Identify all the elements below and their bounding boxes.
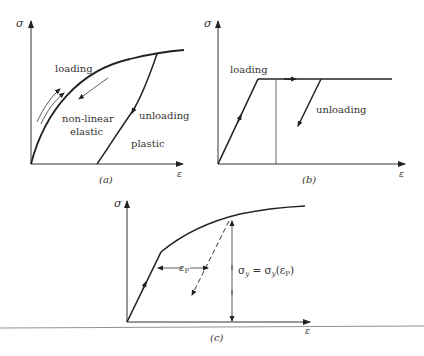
epsilon-label-c: ε <box>305 326 310 336</box>
unloading-label-b: unloading <box>316 104 367 115</box>
unloading-arrow-b <box>298 79 321 126</box>
plastic-strain-label: εP <box>179 262 189 275</box>
loading-arrow-1 <box>37 89 60 122</box>
plastic-label-a: plastic <box>131 138 165 149</box>
caption-a: (a) <box>99 174 113 185</box>
caption-b: (b) <box>302 174 316 185</box>
yield-stress-equation: σy = σy(εP) <box>238 264 294 278</box>
epsilon-label-b: ε <box>399 169 404 179</box>
stress-strain-figure: σ ε loading non-linear elastic unloading… <box>0 0 424 356</box>
caption-c: (c) <box>210 332 224 343</box>
dashed-unloading-c <box>192 221 229 295</box>
panel-b: σ ε loading unloading (b) <box>204 17 405 185</box>
elastic-arrow-b <box>238 115 241 122</box>
sigma-label-b: σ <box>204 17 212 30</box>
sigma-label-c: σ <box>114 197 122 210</box>
nonlinear-label-a: non-linear <box>62 113 114 124</box>
epsilon-label-a: ε <box>177 169 182 179</box>
loading-label-b: loading <box>230 64 268 75</box>
sigma-label-a: σ <box>16 17 24 30</box>
page-rule <box>0 326 424 328</box>
unloading-label-a: unloading <box>139 110 190 121</box>
panel-a: σ ε loading non-linear elastic unloading… <box>16 17 190 185</box>
hardening-curve-c <box>161 206 305 252</box>
loading-label-a: loading <box>55 63 93 74</box>
panel-c: σ ε εP σy = σy(εP) (c) <box>0 197 424 343</box>
elastic-label-a: elastic <box>70 126 103 137</box>
